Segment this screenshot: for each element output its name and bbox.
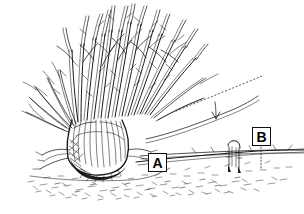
callout-label-b: B bbox=[252, 127, 271, 146]
shrub-stool-base bbox=[67, 120, 129, 182]
bent-layering-branch bbox=[140, 96, 304, 159]
line-art-canvas: .ink{stroke:#1a1a1a;fill:none;stroke-lin… bbox=[0, 0, 304, 214]
basal-suckers bbox=[33, 149, 157, 169]
bending-direction-arrow bbox=[212, 102, 220, 119]
shrub-stems bbox=[22, 4, 218, 132]
anchor-peg bbox=[226, 141, 242, 173]
illustration-figure: .ink{stroke:#1a1a1a;fill:none;stroke-lin… bbox=[0, 0, 304, 214]
ground-litter-dark bbox=[55, 177, 240, 192]
callout-label-a: A bbox=[148, 153, 167, 172]
